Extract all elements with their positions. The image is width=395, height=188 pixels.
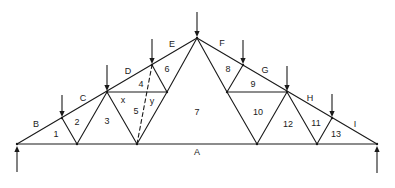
space-label-10: 10 <box>253 108 263 117</box>
space-label-13: 13 <box>331 130 341 139</box>
space-label-y: y <box>150 97 155 106</box>
space-label-I: I <box>354 120 357 129</box>
space-label-4: 4 <box>138 80 143 89</box>
joint-B3 <box>256 143 258 145</box>
joint-M1 <box>166 91 168 93</box>
space-label-H: H <box>307 94 314 103</box>
joint-M2 <box>226 91 228 93</box>
truss-members <box>17 38 377 144</box>
space-label-6: 6 <box>164 65 169 74</box>
joint-T5 <box>286 91 288 93</box>
space-label-2: 2 <box>74 118 79 127</box>
joint-T2 <box>106 91 108 93</box>
joint-R <box>376 143 378 145</box>
load-AP-arrow-icon <box>194 31 199 37</box>
joint-T3 <box>151 64 153 66</box>
joint-T4 <box>242 64 244 66</box>
space-label-C: C <box>80 94 87 103</box>
space-label-9: 9 <box>250 80 255 89</box>
load-arrows <box>59 12 334 117</box>
truss-diagram: A B C D E F G H I 1 2 3 x 4 5 y 6 7 8 9 … <box>0 0 395 188</box>
space-label-D: D <box>125 67 132 76</box>
joint-T6 <box>331 117 333 119</box>
member-M2-B3 <box>227 92 257 144</box>
space-label-3: 3 <box>104 117 109 126</box>
space-label-7: 7 <box>194 108 199 117</box>
reaction-L-arrow-icon <box>14 146 19 152</box>
space-label-A: A <box>194 148 200 157</box>
space-label-E: E <box>169 40 175 49</box>
reaction-R-arrow-icon <box>374 146 379 152</box>
space-label-1: 1 <box>53 130 58 139</box>
truss-joints <box>16 37 378 145</box>
joint-B2 <box>136 143 138 145</box>
joint-B1 <box>76 143 78 145</box>
space-label-12: 12 <box>283 120 293 129</box>
space-label-B: B <box>33 120 39 129</box>
space-label-8: 8 <box>225 65 230 74</box>
space-label-x: x <box>121 96 126 105</box>
truss-drawing <box>0 0 395 188</box>
joint-B4 <box>316 143 318 145</box>
space-label-5: 5 <box>133 107 138 116</box>
joint-AP <box>196 37 198 39</box>
space-label-G: G <box>261 66 268 75</box>
space-label-11: 11 <box>311 119 320 128</box>
joint-T1 <box>61 117 63 119</box>
load-T4-arrow-icon <box>240 58 245 64</box>
joint-L <box>16 143 18 145</box>
space-label-F: F <box>219 39 225 48</box>
